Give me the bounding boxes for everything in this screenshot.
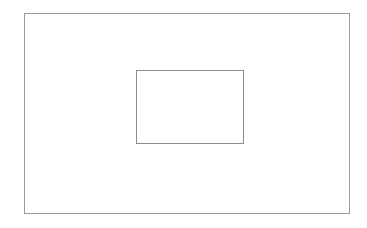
diagram-canvas [0,0,367,228]
shape-layer [0,0,367,228]
inner-rectangle[interactable] [136,70,244,144]
inner-rectangle-interior [137,71,243,143]
